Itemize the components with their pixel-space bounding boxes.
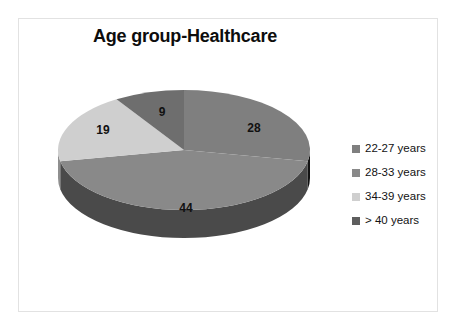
slice-value-label: 9 (159, 105, 166, 119)
legend-item-label: > 40 years (365, 215, 419, 227)
legend-item[interactable]: 34-39 years (352, 186, 448, 207)
legend-item-label: 28-33 years (365, 167, 426, 179)
legend-item[interactable]: 28-33 years (352, 162, 448, 183)
slice-value-label: 44 (179, 201, 192, 215)
pie-svg (58, 90, 312, 256)
legend-swatch-icon (352, 193, 360, 201)
legend-item[interactable]: > 40 years (352, 210, 448, 231)
pie-chart-3d: 28 44 19 9 (58, 90, 312, 256)
slice-value-label: 19 (96, 123, 109, 137)
legend-swatch-icon (352, 145, 360, 153)
legend-item[interactable]: 22-27 years (352, 138, 448, 159)
legend-item-label: 34-39 years (365, 191, 426, 203)
chart-title: Age group-Healthcare (40, 26, 330, 47)
slice-value-label: 28 (247, 121, 260, 135)
legend-item-label: 22-27 years (365, 143, 426, 155)
legend-swatch-icon (352, 217, 360, 225)
chart-legend: 22-27 years 28-33 years 34-39 years > 40… (352, 138, 448, 234)
legend-swatch-icon (352, 169, 360, 177)
chart-canvas: Age group-Healthcare 28 44 19 9 22-27 ye… (0, 0, 458, 332)
pie-top-slices (58, 90, 310, 210)
